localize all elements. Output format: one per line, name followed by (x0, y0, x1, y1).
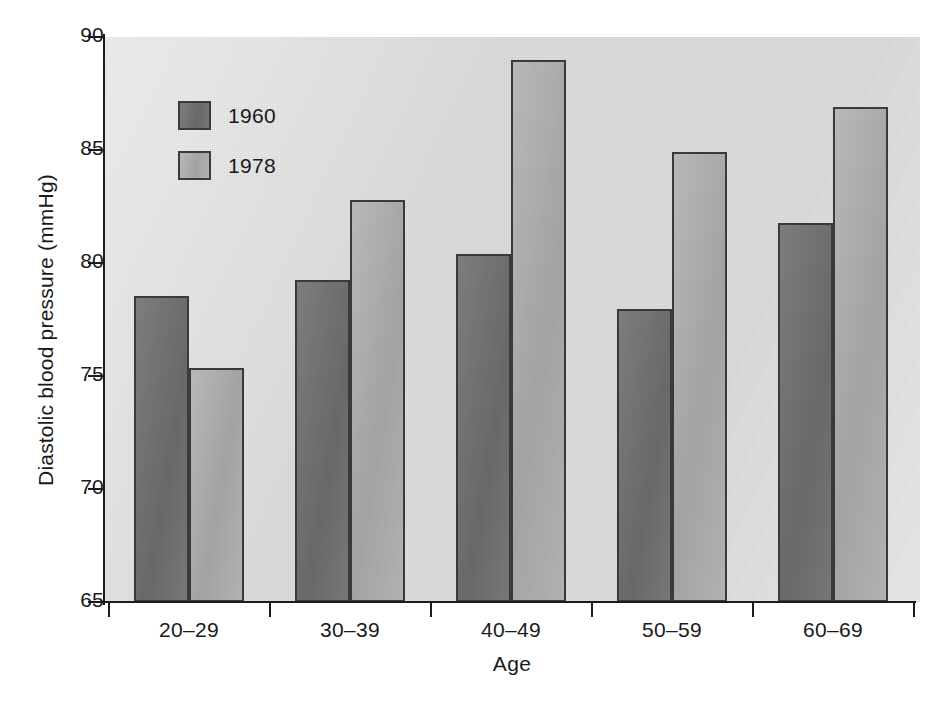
y-axis-tick-label: 65 (58, 588, 104, 612)
x-axis-category-label: 60–69 (763, 618, 903, 642)
bar-1978-40–49 (511, 60, 566, 602)
x-axis-title: Age (104, 652, 920, 676)
legend-label: 1960 (228, 104, 276, 128)
x-axis-category-label: 20–29 (119, 618, 259, 642)
y-axis-tick-label: 90 (58, 23, 104, 47)
bar-1960-30–39 (295, 280, 350, 602)
y-axis-title: Diastolic blood pressure (mmHg) (34, 70, 58, 590)
x-axis-tick-mark (108, 603, 110, 617)
x-axis-tick-mark (913, 603, 915, 617)
y-axis-tick-label: 70 (58, 475, 104, 499)
bar-1978-50–59 (672, 152, 727, 602)
bar-1960-60–69 (778, 223, 833, 602)
legend-label: 1978 (228, 154, 276, 178)
x-axis-tick-mark (269, 603, 271, 617)
x-axis-tick-mark (752, 603, 754, 617)
y-axis-tick-label: 75 (58, 362, 104, 386)
x-axis-tick-mark (430, 603, 432, 617)
bar-1978-60–69 (833, 107, 888, 602)
y-axis-tick-label: 85 (58, 136, 104, 160)
x-axis-line (99, 601, 916, 603)
bar-1960-50–59 (617, 309, 672, 602)
legend-swatch-icon (178, 151, 211, 180)
plot-area: 19601978 (104, 37, 920, 602)
legend-item-1960: 1960 (178, 101, 276, 130)
bar-1978-20–29 (189, 368, 244, 602)
legend-swatch-icon (178, 101, 211, 130)
x-axis-category-label: 40–49 (441, 618, 581, 642)
x-axis-tick-mark (591, 603, 593, 617)
x-axis-category-label: 30–39 (280, 618, 420, 642)
bar-1978-30–39 (350, 200, 405, 602)
bar-chart-figure: 19601978 657075808590 20–2930–3940–4950–… (0, 0, 941, 701)
bar-1960-20–29 (134, 296, 189, 602)
y-axis-line (103, 34, 105, 605)
bar-1960-40–49 (456, 254, 511, 602)
y-axis-tick-label: 80 (58, 249, 104, 273)
legend-item-1978: 1978 (178, 151, 276, 180)
x-axis-category-label: 50–59 (602, 618, 742, 642)
